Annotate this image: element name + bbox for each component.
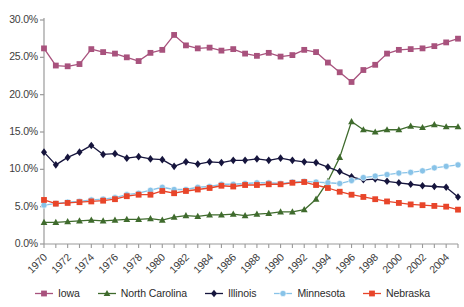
data-point-square (301, 47, 307, 53)
data-point-circle (280, 290, 286, 296)
data-point-square (219, 48, 225, 54)
data-point-square (171, 32, 177, 38)
data-point-diamond (112, 150, 118, 158)
data-point-diamond (278, 154, 284, 162)
data-point-square (301, 179, 307, 185)
data-point-diamond (195, 160, 201, 168)
data-point-square (431, 43, 437, 49)
data-point-square (254, 53, 260, 59)
data-point-square (53, 63, 59, 69)
data-point-square (372, 196, 378, 202)
legend-label: Nebraska (386, 287, 430, 299)
data-point-square (349, 192, 355, 198)
data-point-circle (337, 180, 343, 186)
legend-label: Minnesota (297, 287, 345, 299)
legend-item-illinois[interactable]: Illinois (204, 287, 256, 299)
data-point-square (337, 69, 343, 75)
data-point-square (136, 58, 142, 64)
data-point-square (77, 61, 83, 67)
data-point-square (369, 290, 375, 296)
legend-item-iowa[interactable]: Iowa (34, 287, 80, 299)
data-point-circle (41, 202, 47, 208)
data-point-diamond (455, 193, 461, 201)
data-point-square (88, 46, 94, 52)
data-point-square (148, 192, 154, 198)
data-point-square (219, 183, 225, 189)
y-axis-tick-label: 25.0% (0, 50, 38, 62)
legend-item-minnesota[interactable]: Minnesota (273, 287, 345, 299)
data-point-square (349, 79, 355, 85)
data-point-square (100, 198, 106, 204)
legend-item-north-carolina[interactable]: North Carolina (97, 287, 187, 299)
data-point-square (290, 52, 296, 58)
data-point-square (124, 54, 130, 60)
data-point-square (41, 45, 47, 51)
data-point-diamond (420, 182, 426, 190)
data-point-square (396, 47, 402, 53)
data-point-square (266, 181, 272, 187)
data-point-diamond (124, 154, 130, 162)
data-point-square (112, 196, 118, 202)
data-point-square (455, 207, 461, 213)
data-point-diamond (242, 157, 248, 165)
data-point-square (325, 185, 331, 191)
data-point-square (207, 45, 213, 51)
data-point-square (159, 188, 165, 194)
data-point-square (420, 45, 426, 51)
data-point-diamond (211, 289, 217, 297)
data-point-diamond (301, 158, 307, 166)
data-point-square (230, 46, 236, 52)
data-point-square (384, 199, 390, 205)
data-point-diamond (431, 183, 437, 191)
data-point-square (41, 197, 47, 203)
data-point-square (360, 67, 366, 73)
data-point-diamond (337, 168, 343, 176)
data-point-square (372, 62, 378, 68)
data-point-square (254, 182, 260, 188)
legend-marker-icon (204, 288, 224, 299)
data-point-circle (431, 165, 437, 171)
y-axis-tick-label: 5.0% (0, 200, 38, 212)
y-axis-tick-label: 15.0% (0, 125, 38, 137)
data-point-square (242, 51, 248, 57)
data-point-circle (408, 169, 414, 175)
data-point-diamond (65, 154, 71, 162)
data-point-square (183, 42, 189, 48)
data-point-circle (360, 174, 366, 180)
data-point-square (443, 40, 449, 46)
data-point-triangle (431, 121, 438, 127)
series-line (44, 182, 458, 210)
data-point-circle (348, 177, 354, 183)
data-point-circle (419, 168, 425, 174)
data-point-square (420, 202, 426, 208)
data-point-square (100, 49, 106, 55)
data-point-diamond (230, 157, 236, 165)
data-point-square (384, 51, 390, 57)
data-point-diamond (384, 177, 390, 185)
data-point-square (325, 60, 331, 66)
chart-legend: IowaNorth CarolinaIllinoisMinnesotaNebra… (0, 281, 464, 305)
data-point-square (195, 187, 201, 193)
data-point-square (443, 204, 449, 210)
data-point-diamond (183, 158, 189, 166)
data-point-diamond (396, 179, 402, 187)
legend-label: Iowa (58, 287, 80, 299)
data-point-circle (325, 180, 331, 186)
data-point-square (337, 189, 343, 195)
data-point-triangle (360, 126, 367, 132)
data-point-square (195, 45, 201, 51)
y-axis-tick-label: 20.0% (0, 88, 38, 100)
data-point-diamond (147, 155, 153, 163)
data-point-diamond (408, 180, 414, 188)
data-point-square (313, 182, 319, 188)
line-chart: 0.0%5.0%10.0%15.0%20.0%25.0%30.0% 197019… (0, 0, 464, 307)
data-point-square (408, 46, 414, 52)
legend-item-nebraska[interactable]: Nebraska (362, 287, 430, 299)
data-point-diamond (100, 151, 106, 159)
y-axis-tick-label: 30.0% (0, 13, 38, 25)
data-point-diamond (289, 157, 295, 165)
data-point-circle (443, 163, 449, 169)
data-point-diamond (136, 153, 142, 161)
data-point-square (124, 193, 130, 199)
data-point-square (230, 184, 236, 190)
